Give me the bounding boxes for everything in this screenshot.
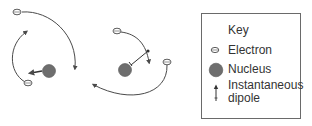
- dipole-line: [131, 51, 148, 65]
- legend-box: Key Electron Nucleus Instantaneous dipol…: [201, 13, 301, 119]
- legend-label: Nucleus: [228, 63, 271, 76]
- nucleus-icon: [208, 62, 224, 78]
- nucleus-icon: [119, 64, 132, 77]
- atom-left: [12, 9, 75, 86]
- dipole-diagram: [0, 0, 200, 126]
- electron-orbit-arc: [121, 32, 149, 62]
- electron-icon: [210, 46, 220, 54]
- dipole-arrow-icon: [31, 71, 42, 73]
- electron-orbit-arc: [12, 32, 26, 82]
- legend-title: Key: [228, 23, 249, 37]
- atom-middle: [94, 28, 171, 95]
- legend-label: Electron: [228, 44, 272, 57]
- legend-label-line2: dipole: [228, 92, 260, 105]
- electron-orbit-arc: [22, 12, 75, 68]
- dipole-arrow-icon: [213, 84, 219, 102]
- nucleus-icon: [43, 65, 56, 78]
